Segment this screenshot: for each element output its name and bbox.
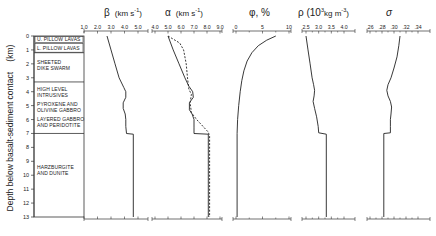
x-tick-label: 4.0 <box>121 24 128 30</box>
x-tick-label: 6.0 <box>177 24 184 30</box>
x-tick-label: .30 <box>390 24 397 30</box>
lithology-column: U. PILLOW LAVASL. PILLOW LAVASSHEETEDDIK… <box>34 36 84 217</box>
panel-beta: 1.02.03.04.05.0 <box>80 24 148 221</box>
x-tick-label: .26 <box>366 24 373 30</box>
depth-tick-label: 5 <box>26 103 29 109</box>
x-tick-label: 3.0 <box>315 24 322 30</box>
sigma-title: σ <box>386 7 393 18</box>
lithology-label: INTRUSIVES <box>37 92 69 98</box>
depth-tick-label: 1 <box>26 47 29 53</box>
lithology-label: OLIVINE GABBRO <box>37 107 81 113</box>
lithology-label: L. PILLOW LAVAS <box>37 45 80 51</box>
series-alpha <box>168 36 210 217</box>
x-tick-label: 3.0 <box>107 24 114 30</box>
ylabel-units: (km) <box>5 44 15 61</box>
x-tick-label: 4.0 <box>340 24 347 30</box>
x-tick-label: .34 <box>414 24 421 30</box>
depth-axis: 012345678910111213 <box>23 33 34 220</box>
depth-tick-label: 12 <box>23 200 29 206</box>
x-tick-label: 7.0 <box>190 24 197 30</box>
x-tick-label: .28 <box>378 24 385 30</box>
x-tick-label: 2.5 <box>302 24 309 30</box>
depth-tick-label: 9 <box>26 158 29 164</box>
y-axis-label: Depth below basalt-sediment contact (km) <box>5 44 15 211</box>
x-tick-label: 5.0 <box>134 24 141 30</box>
depth-tick-label: 6 <box>26 117 29 123</box>
series-rho <box>306 36 326 217</box>
depth-tick-label: 0 <box>26 33 29 39</box>
lithology-label: U. PILLOW LAVAS <box>37 36 81 42</box>
lithology-label: DIKE SWARM <box>37 65 70 71</box>
panels: 1.02.03.04.05.04.05.06.07.08.09.005102.5… <box>80 24 430 221</box>
panel-alpha: 4.05.06.07.08.09.0 <box>151 24 223 221</box>
x-tick-label: 2.0 <box>94 24 101 30</box>
depth-tick-label: 8 <box>26 144 29 150</box>
x-tick-label: 5 <box>261 24 264 30</box>
depth-tick-label: 11 <box>23 186 29 192</box>
depth-tick-label: 7 <box>26 130 29 136</box>
figure: Depth below basalt-sediment contact (km)… <box>0 0 436 236</box>
x-tick-label: 4.0 <box>151 24 158 30</box>
panel-sigma: .26.28.30.32.34 <box>366 24 430 221</box>
lithology-label: AND PERIDOTITE <box>37 122 81 128</box>
phi-title: φ, % <box>249 7 270 18</box>
x-tick-label: 10 <box>286 24 292 30</box>
x-tick-label: 9.0 <box>216 24 223 30</box>
depth-tick-label: 10 <box>23 172 29 178</box>
x-tick-label: .32 <box>402 24 409 30</box>
depth-tick-label: 2 <box>26 61 29 67</box>
alpha-title: α(km s-1) <box>165 7 203 18</box>
depth-tick-label: 4 <box>26 89 29 95</box>
x-tick-label: 3.5 <box>328 24 335 30</box>
depth-tick-label: 13 <box>23 214 29 220</box>
beta-title: β(km s-1) <box>104 7 142 18</box>
x-tick-label: 5.0 <box>164 24 171 30</box>
series-beta <box>107 36 133 217</box>
rho-title: ρ (103kg m-3) <box>298 7 349 18</box>
x-tick-label: 8.0 <box>203 24 210 30</box>
ylabel-text: Depth below basalt-sediment contact <box>5 71 15 211</box>
series-alpha <box>168 36 208 217</box>
panel-titles: β(km s-1) α(km s-1) φ, % ρ (103kg m-3) σ <box>104 7 393 18</box>
lithology-label: AND DUNITE <box>37 170 69 176</box>
panel-rho: 2.53.03.54.0 <box>302 24 355 221</box>
x-tick-label: 1.0 <box>80 24 87 30</box>
depth-tick-label: 3 <box>26 75 29 81</box>
series-sigma <box>384 36 400 217</box>
svg-text:Depth below basalt-sediment co: Depth below basalt-sediment contact (km) <box>5 44 15 211</box>
x-tick-label: 0 <box>235 24 238 30</box>
panel-phi: 0510 <box>233 24 292 221</box>
series-phi <box>237 36 276 217</box>
